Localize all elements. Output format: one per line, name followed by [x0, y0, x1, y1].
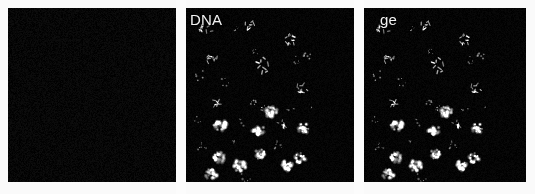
panel-image-merge [364, 8, 526, 182]
panel-image-dna [186, 8, 354, 182]
microscopy-panel-dna[interactable]: DNA [186, 8, 354, 182]
panel-divider-2 [354, 0, 364, 194]
panel-divider-1 [176, 0, 186, 194]
panel-label-merge: ge [380, 11, 397, 28]
microscopy-panel-merge[interactable]: ge [364, 8, 526, 182]
panel-label-dna: DNA [190, 11, 222, 28]
microscopy-panel-empty[interactable] [8, 8, 176, 182]
panel-image-empty [8, 8, 176, 182]
microscopy-figure: DNA ge [0, 0, 535, 194]
